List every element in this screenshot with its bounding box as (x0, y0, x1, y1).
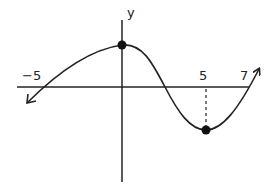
x-tick-label-5: 5 (199, 68, 207, 83)
x-tick-label-7: 7 (240, 68, 248, 83)
x-tick-label-neg5: −5 (22, 68, 41, 83)
local-minimum-point (202, 126, 211, 135)
local-maximum-point (118, 41, 127, 50)
function-graph: y −5 5 7 (0, 0, 270, 195)
y-axis-label: y (127, 5, 135, 20)
